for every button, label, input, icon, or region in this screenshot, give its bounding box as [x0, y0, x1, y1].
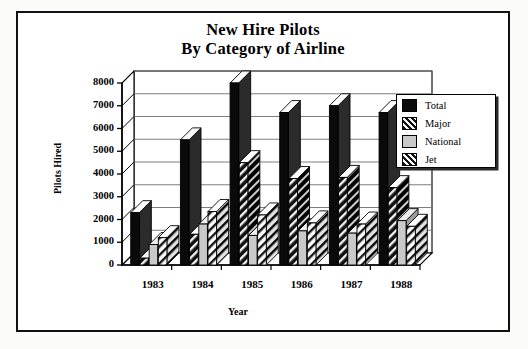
x-tick-label-1983: 1983	[130, 278, 176, 290]
y-tick-label-2000: 2000	[68, 213, 114, 224]
y-tick-label-1000: 1000	[68, 235, 114, 246]
x-tick-label-1988: 1988	[378, 278, 424, 290]
y-tick-label-5000: 5000	[68, 144, 114, 155]
legend-label: Total	[425, 100, 446, 111]
x-tick-label-1985: 1985	[229, 278, 275, 290]
y-tick-label-8000: 8000	[68, 76, 114, 87]
legend-item-total[interactable]: Total	[402, 97, 495, 113]
y-tick-label-6000: 6000	[68, 122, 114, 133]
y-axis-title: Pilots Hired	[52, 124, 63, 214]
y-tick-label-3000: 3000	[68, 190, 114, 201]
x-tick-label-1987: 1987	[329, 278, 375, 290]
legend-swatch-total	[402, 99, 417, 112]
x-tick-label-1984: 1984	[180, 278, 226, 290]
x-tick-label-1986: 1986	[279, 278, 325, 290]
bar-1985-jet	[258, 203, 279, 265]
y-tick-label-7000: 7000	[68, 99, 114, 110]
bar-1984-jet	[208, 200, 229, 265]
chart-figure-frame: New Hire Pilots By Category of Airline P	[16, 11, 510, 332]
legend-item-major[interactable]: Major	[402, 115, 495, 131]
legend-item-national[interactable]: National	[402, 133, 495, 149]
y-tick-label-0: 0	[68, 258, 114, 269]
legend-item-jet[interactable]: Jet	[402, 151, 495, 167]
chart-legend: TotalMajorNationalJet	[396, 94, 496, 168]
legend-label: Major	[425, 118, 451, 129]
x-axis-title: Year	[18, 306, 458, 317]
legend-label: National	[425, 136, 461, 147]
legend-swatch-jet	[402, 153, 417, 166]
legend-swatch-major	[402, 117, 417, 130]
y-tick-label-4000: 4000	[68, 167, 114, 178]
legend-label: Jet	[425, 154, 437, 165]
legend-swatch-national	[402, 135, 417, 148]
